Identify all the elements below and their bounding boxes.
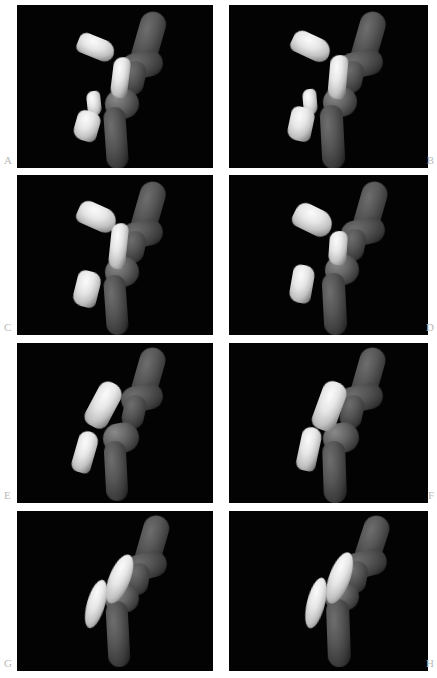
panel-label-f: F (428, 490, 434, 501)
panel-c[interactable] (17, 175, 213, 335)
panel-g[interactable] (17, 511, 213, 671)
render-scene-e (17, 343, 213, 503)
bone-shaft-lower-c (103, 274, 129, 335)
panel-label-d: D (426, 322, 434, 333)
render-scene-d (229, 175, 428, 335)
render-scene-a (17, 5, 213, 168)
bone-shaft-lower-g (105, 600, 130, 667)
panel-row-2: C D (0, 175, 437, 335)
panel-e[interactable] (17, 343, 213, 503)
render-scene-f (229, 343, 428, 503)
render-scene-b (229, 5, 428, 168)
bone-shaft-lower-d (321, 272, 347, 335)
render-scene-g (17, 511, 213, 671)
panel-d[interactable] (229, 175, 428, 335)
render-scene-c (17, 175, 213, 335)
render-scene-h (229, 511, 428, 671)
bone-fragment-2-d (328, 230, 348, 265)
panel-label-a: A (4, 155, 12, 166)
bone-fragment-3-d (288, 263, 316, 304)
panel-label-g: G (4, 658, 12, 669)
bone-shaft-lower-h (326, 599, 351, 668)
panel-b[interactable] (229, 5, 428, 168)
bone-fragment-4-a (71, 108, 102, 143)
bone-fragment-1-d (289, 200, 336, 241)
bone-shaft-lower-e (103, 440, 128, 501)
panel-label-e: E (4, 490, 11, 501)
bone-fragment-2-b (327, 54, 349, 99)
panel-row-1: A B (0, 5, 437, 168)
panel-row-3: E F (0, 343, 437, 503)
bone-shaft-lower-f (322, 441, 347, 503)
bone-fragment-1-b (288, 28, 334, 66)
bone-shaft-lower-b (319, 104, 345, 168)
panel-label-h: H (426, 658, 434, 669)
bone-fragment-4-b (286, 105, 317, 143)
bone-fragment-3-c (71, 269, 103, 310)
figure-panel-grid: A B (0, 0, 437, 678)
panel-h[interactable] (229, 511, 428, 671)
bone-fragment-1-a (74, 31, 117, 65)
panel-label-b: B (427, 155, 434, 166)
panel-row-4: G H (0, 511, 437, 671)
panel-label-c: C (4, 322, 11, 333)
panel-f[interactable] (229, 343, 428, 503)
bone-fragment-2-e (70, 429, 101, 475)
bone-fragment-2-f (295, 425, 324, 472)
panel-a[interactable] (17, 5, 213, 168)
bone-shaft-lower-a (103, 106, 129, 168)
